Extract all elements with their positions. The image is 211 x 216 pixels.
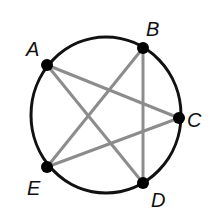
point-a	[41, 59, 53, 71]
point-c	[173, 112, 185, 124]
label-d: D	[151, 189, 165, 211]
point-e	[41, 161, 53, 173]
inscribed-star-diagram: ABCED	[0, 0, 211, 216]
point-d	[137, 177, 149, 189]
label-c: C	[187, 109, 202, 131]
label-e: E	[27, 177, 41, 199]
label-a: A	[25, 38, 39, 60]
circle	[31, 37, 181, 193]
label-b: B	[146, 18, 159, 40]
point-b	[137, 42, 149, 54]
chords	[47, 48, 179, 183]
